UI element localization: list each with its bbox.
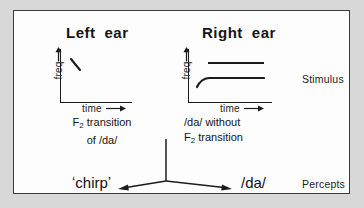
panel-title-right-ear: Rightear: [202, 24, 276, 41]
left-ear-title-word1: Left: [66, 24, 96, 41]
label-percepts: Percepts: [302, 178, 345, 190]
x-axis-label-group-left: time: [82, 103, 126, 114]
spectrogram-plot-left-ear: freq time: [48, 47, 158, 115]
right-ear-title-word1: Right: [202, 24, 243, 41]
f2-transition-trace-left: [60, 49, 132, 103]
label-stimulus: Stimulus: [302, 73, 344, 85]
right-ear-title-word2: ear: [252, 24, 276, 41]
x-axis-label-group-right: time: [220, 103, 264, 114]
left-ear-title-word2: ear: [105, 24, 129, 41]
caption-left-rest: transition: [84, 116, 132, 128]
diagram-panel: Leftear Rightear freq time: [13, 10, 350, 194]
fork-junction-icon: [110, 139, 240, 193]
panel-title-left-ear: Leftear: [66, 24, 129, 41]
caption-right-line1: /da/ without: [180, 115, 296, 130]
close-quote-mark: ʼ: [108, 174, 111, 191]
formant-traces-right: [188, 49, 272, 103]
right-arrow-icon: [244, 104, 264, 113]
x-axis-label-left: time: [82, 103, 102, 114]
arrow-right-icon: [221, 184, 232, 190]
lower-formant-line: [197, 78, 264, 87]
percept-chirp: ʻchirpʼ: [72, 174, 111, 191]
spectrogram-plot-right-ear: freq time: [176, 47, 286, 115]
caption-left-line1: F2 transition: [48, 115, 156, 133]
percept-chirp-word: chirp: [75, 174, 108, 191]
x-axis-label-right: time: [220, 103, 240, 114]
arrow-left-icon: [118, 184, 129, 190]
figure-container: Leftear Rightear freq time: [0, 0, 364, 208]
percept-da: /da/: [241, 174, 266, 191]
right-arrow-icon: [106, 104, 126, 113]
